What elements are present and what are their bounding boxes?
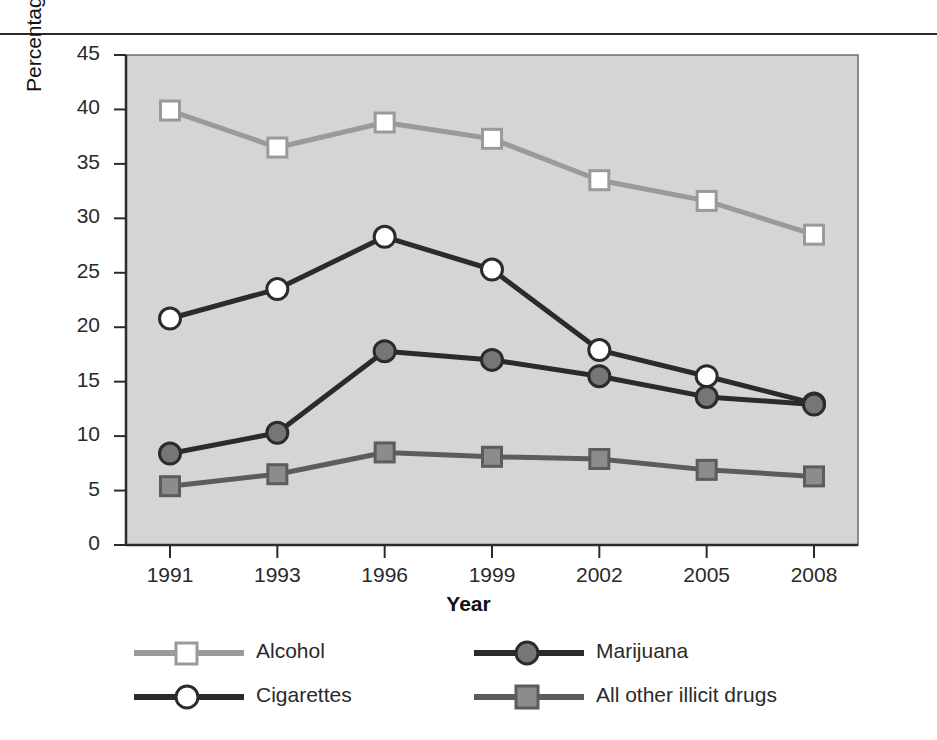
y-tick-label: 45 [56,41,100,65]
data-point [805,467,824,486]
data-point [805,225,824,244]
data-point [375,113,394,132]
data-point [483,447,502,466]
chart-legend: Alcohol Marijuana Cigarettes All other i… [132,636,772,718]
data-point [696,366,717,387]
data-point [697,460,716,479]
data-point [804,394,825,415]
x-tick-label: 1993 [237,563,317,587]
y-tick-label: 25 [56,259,100,283]
data-point [590,449,609,468]
x-tick-label: 1999 [452,563,532,587]
y-tick-label: 20 [56,313,100,337]
legend-label-all-other-illicit-drugs: All other illicit drugs [596,683,777,707]
data-point [160,443,181,464]
x-tick-label: 2008 [774,563,854,587]
figure-page: Percentage who've used in past 30 days 0… [0,0,937,740]
y-tick-label: 30 [56,204,100,228]
data-point [374,341,395,362]
legend-swatch-marijuana [472,636,586,670]
data-point [482,259,503,280]
data-point [482,349,503,370]
data-point [161,101,180,120]
data-point [268,465,287,484]
data-point [590,171,609,190]
legend-label-alcohol: Alcohol [256,639,325,663]
y-tick-label: 10 [56,422,100,446]
data-point [589,366,610,387]
x-tick-label: 1991 [130,563,210,587]
data-point [697,191,716,210]
data-point [161,477,180,496]
y-tick-label: 40 [56,95,100,119]
data-point [267,422,288,443]
data-point [483,129,502,148]
legend-swatch-cigarettes [132,680,246,714]
data-point [589,340,610,361]
legend-label-marijuana: Marijuana [596,639,688,663]
data-point [375,443,394,462]
legend-swatch-all-other-illicit-drugs [472,680,586,714]
data-point [268,138,287,157]
legend-swatch-alcohol [132,636,246,670]
data-point [267,279,288,300]
y-tick-label: 0 [56,531,100,555]
x-tick-label: 2005 [667,563,747,587]
data-point [374,226,395,247]
legend-label-cigarettes: Cigarettes [256,683,352,707]
x-axis-title: Year [0,592,937,616]
y-tick-label: 5 [56,477,100,501]
x-tick-label: 1996 [345,563,425,587]
x-tick-label: 2002 [559,563,639,587]
line-chart [0,0,937,740]
y-tick-label: 35 [56,150,100,174]
y-tick-label: 15 [56,368,100,392]
data-point [160,308,181,329]
data-point [696,386,717,407]
